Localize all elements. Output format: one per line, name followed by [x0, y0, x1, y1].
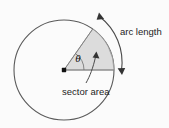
sector-shape — [64, 29, 114, 70]
arc-length-arrowhead-bottom — [118, 68, 126, 75]
sector-area-label: sector area — [62, 86, 110, 97]
arc-length-label: arc length — [120, 26, 162, 37]
angle-theta-label: θ — [75, 52, 81, 64]
arc-length-arrowhead-top — [97, 13, 105, 20]
center-point-dot — [62, 68, 66, 72]
circle-sector-diagram: θ arc length sector area — [0, 0, 169, 128]
